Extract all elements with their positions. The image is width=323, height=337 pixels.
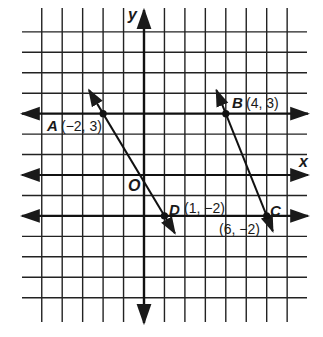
point-D-name: D (169, 201, 180, 218)
point-D-dot (161, 212, 168, 219)
coordinate-plane-figure: y x O A (−2, 3) B (4, 3) C (6, −2) D (1,… (0, 0, 323, 337)
origin-label: O (128, 177, 141, 194)
point-A-dot (100, 110, 107, 117)
grid-lines (22, 8, 307, 322)
point-A-coords: (−2, 3) (61, 118, 102, 134)
point-B-dot (222, 110, 229, 117)
point-B-name: B (232, 94, 243, 111)
point-A-name: A (46, 117, 58, 134)
point-C-name: C (270, 202, 282, 219)
point-D-coords: (1, −2) (184, 200, 225, 216)
point-label-D: D (1, −2) (169, 200, 225, 218)
point-label-C: C (6, −2) (219, 202, 282, 237)
coordinate-plane-svg: y x O A (−2, 3) B (4, 3) C (6, −2) D (1,… (0, 0, 323, 337)
point-B-coords: (4, 3) (246, 95, 279, 111)
point-C-coords: (6, −2) (219, 221, 260, 237)
x-axis-label: x (298, 153, 309, 170)
y-axis-label: y (127, 6, 138, 23)
slanted-lines (89, 90, 273, 233)
point-label-B: B (4, 3) (232, 94, 279, 111)
point-label-A: A (−2, 3) (46, 117, 102, 134)
